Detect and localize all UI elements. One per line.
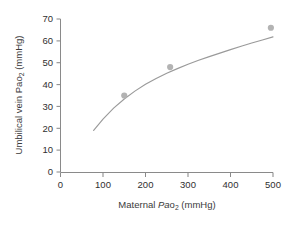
data-point xyxy=(167,64,173,70)
y-tick-label-60: 60 xyxy=(42,35,53,46)
y-tick-label-20: 20 xyxy=(42,123,53,134)
y-tick-label-40: 40 xyxy=(42,79,53,90)
y-axis-title-post: (mmHg) xyxy=(13,36,24,73)
x-axis-title-pre: Maternal xyxy=(118,199,158,210)
y-tick-label-50: 50 xyxy=(42,57,53,68)
chart-background xyxy=(0,0,290,225)
chart-figure: 0 10 20 30 40 50 60 70 0 1 xyxy=(0,0,290,225)
svg-text:Maternal Pao2 (mmHg): Maternal Pao2 (mmHg) xyxy=(118,199,215,211)
y-tick-label-10: 10 xyxy=(42,144,53,155)
x-axis-title: Maternal Pao2 (mmHg) xyxy=(118,199,215,211)
y-tick-label-70: 70 xyxy=(42,13,53,24)
x-tick-label-400: 400 xyxy=(223,179,239,190)
y-axis-title-pre: Umbilical vein Pa xyxy=(13,81,24,155)
data-point xyxy=(268,25,274,31)
y-tick-label-30: 30 xyxy=(42,101,53,112)
data-point xyxy=(121,92,127,98)
x-tick-label-500: 500 xyxy=(265,179,281,190)
x-axis-title-post: (mmHg) xyxy=(179,199,216,210)
x-tick-label-200: 200 xyxy=(138,179,154,190)
x-tick-label-0: 0 xyxy=(58,179,63,190)
x-axis-title-italic: Pa xyxy=(158,199,170,210)
x-tick-label-100: 100 xyxy=(95,179,111,190)
y-axis-title: Umbilical vein Pao2 (mmHg) xyxy=(13,36,25,155)
x-tick-label-300: 300 xyxy=(180,179,196,190)
svg-text:Umbilical vein Pao2 (mmHg): Umbilical vein Pao2 (mmHg) xyxy=(13,36,25,155)
y-tick-label-0: 0 xyxy=(48,166,53,177)
